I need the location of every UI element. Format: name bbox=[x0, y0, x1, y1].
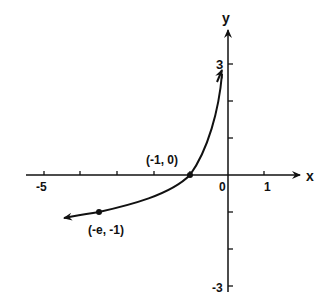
point-neg1-0 bbox=[187, 172, 193, 178]
y-axis-label: y bbox=[222, 10, 230, 26]
y-tick-label-3: 3 bbox=[216, 57, 223, 72]
graph: y x -5 0 1 3 -3 (-1, 0) (-e, -1) bbox=[0, 0, 333, 299]
x-tick-label-1: 1 bbox=[264, 180, 271, 194]
x-tick-label-0: 0 bbox=[219, 180, 226, 194]
y-tick-label-neg3: -3 bbox=[212, 281, 223, 295]
point-label-nege-neg1: (-e, -1) bbox=[88, 223, 124, 237]
log-curve bbox=[64, 74, 222, 218]
x-tick-label-neg5: -5 bbox=[36, 180, 47, 194]
point-nege-neg1 bbox=[96, 209, 102, 215]
x-axis-label: x bbox=[306, 168, 314, 184]
point-label-neg1-0: (-1, 0) bbox=[146, 153, 178, 167]
